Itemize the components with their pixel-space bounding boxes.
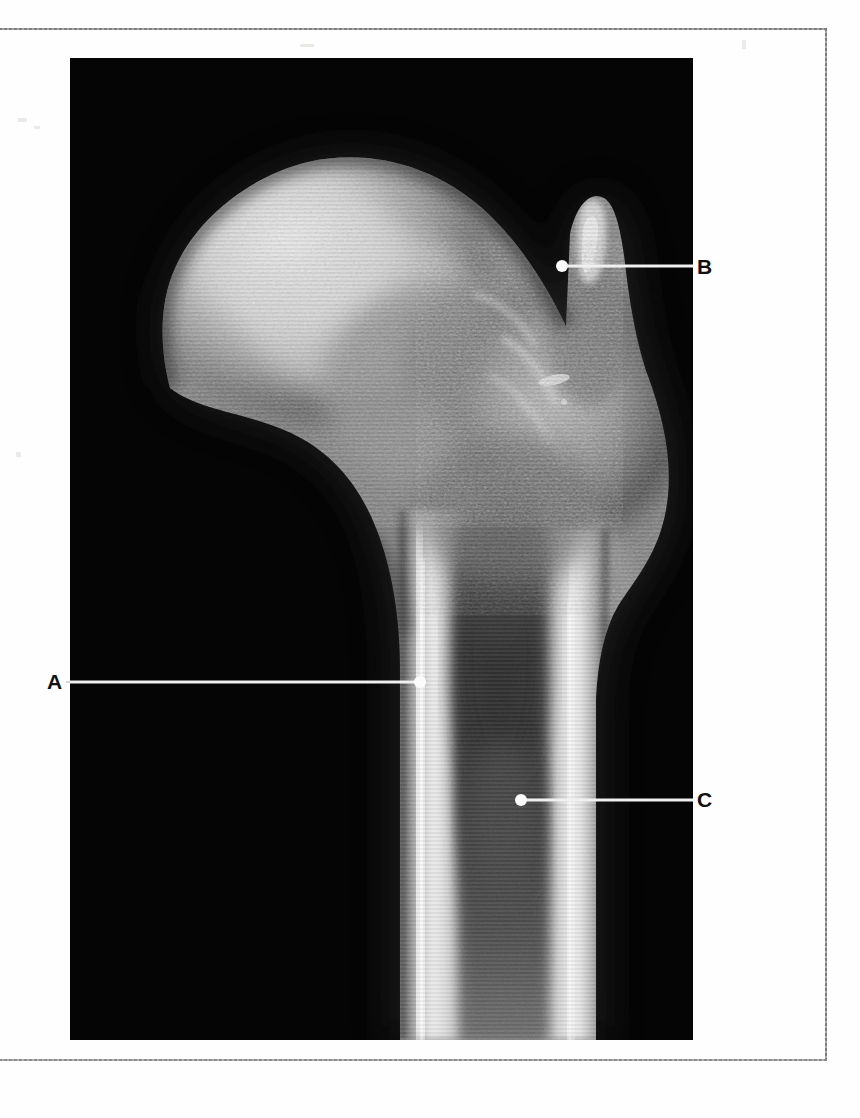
page-frame-top-rule <box>0 28 827 30</box>
paper-speck <box>300 44 314 47</box>
radiograph-image <box>70 58 693 1040</box>
figure-page: A B C <box>0 0 860 1118</box>
page-frame-right-rule <box>825 28 827 1061</box>
leader-label-a: A <box>47 671 62 692</box>
page-frame-bottom-rule <box>0 1059 827 1061</box>
paper-speck <box>742 40 746 49</box>
leader-label-b: B <box>697 256 712 277</box>
leader-label-c: C <box>697 789 712 810</box>
radiograph-canvas <box>70 58 693 1040</box>
paper-speck <box>34 126 40 129</box>
paper-speck <box>16 452 21 457</box>
paper-speck <box>18 118 27 122</box>
